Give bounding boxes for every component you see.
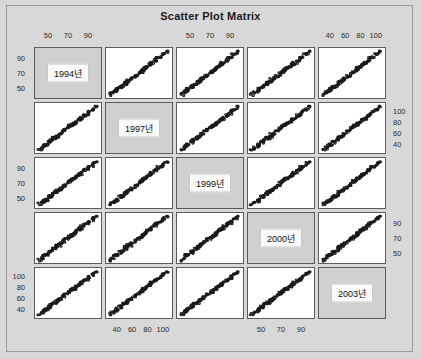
axis-tick-label: 80 (393, 117, 401, 126)
axis-tick-label: 70 (393, 234, 401, 243)
matrix-scatter-cell-r3-c1 (34, 157, 102, 209)
axis-tick-label: 70 (206, 31, 214, 40)
axis-tick-label: 80 (356, 31, 364, 40)
matrix-diagonal-cell-2: 1997년 (105, 102, 173, 154)
matrix-diagonal-cell-4: 2000년 (247, 212, 315, 264)
axis-tick-label: 40 (326, 31, 334, 40)
matrix-scatter-cell-r5-c3 (176, 267, 244, 319)
axis-left-row-5: 100806040 (27, 267, 34, 319)
axis-tick-label: 90 (393, 219, 401, 228)
axis-top-col-2 (105, 40, 173, 47)
axis-tick-label: 90 (17, 164, 25, 173)
matrix-scatter-cell-r5-c4 (247, 267, 315, 319)
matrix-diagonal-cell-5: 2003년 (318, 267, 386, 319)
matrix-scatter-cell-r5-c1 (34, 267, 102, 319)
axis-right-row-5 (386, 267, 393, 319)
matrix-scatter-cell-r1-c2 (105, 47, 173, 99)
axis-tick-label: 50 (44, 31, 52, 40)
axis-top-col-1: 507090 (34, 40, 102, 47)
axis-top-col-4 (247, 40, 315, 47)
matrix-scatter-cell-r2-c1 (34, 102, 102, 154)
axis-bottom-col-3 (176, 319, 244, 326)
axis-right-row-3 (386, 157, 393, 209)
axis-bottom-col-2: 406080100 (105, 319, 173, 326)
axis-tick-label: 40 (113, 325, 121, 334)
matrix-scatter-cell-r2-c5 (318, 102, 386, 154)
matrix-scatter-cell-r4-c5 (318, 212, 386, 264)
axis-tick-label: 100 (12, 271, 25, 280)
matrix-scatter-cell-r4-c3 (176, 212, 244, 264)
axis-right-row-4: 907050 (386, 212, 393, 264)
matrix-scatter-cell-r3-c4 (247, 157, 315, 209)
axis-tick-label: 40 (393, 140, 401, 149)
axis-left-row-2 (27, 102, 34, 154)
axis-tick-label: 50 (186, 31, 194, 40)
matrix-scatter-cell-r1-c3 (176, 47, 244, 99)
matrix-scatter-cell-r4-c1 (34, 212, 102, 264)
axis-tick-label: 60 (128, 325, 136, 334)
axis-bottom-col-4: 507090 (247, 319, 315, 326)
axis-tick-label: 80 (17, 282, 25, 291)
axis-tick-label: 90 (226, 31, 234, 40)
axis-bottom-col-1 (34, 319, 102, 326)
axis-tick-label: 50 (17, 83, 25, 92)
matrix-scatter-cell-r3-c5 (318, 157, 386, 209)
variable-label: 2000년 (260, 229, 302, 248)
axis-tick-label: 70 (277, 325, 285, 334)
axis-left-row-3: 907050 (27, 157, 34, 209)
matrix-scatter-cell-r2-c4 (247, 102, 315, 154)
axis-top-col-5: 406080100 (318, 40, 386, 47)
axis-tick-label: 90 (297, 325, 305, 334)
axis-tick-label: 50 (257, 325, 265, 334)
axis-tick-label: 80 (143, 325, 151, 334)
matrix-scatter-cell-r1-c5 (318, 47, 386, 99)
axis-bottom-col-5 (318, 319, 386, 326)
axis-tick-label: 60 (17, 294, 25, 303)
axis-left-row-4 (27, 212, 34, 264)
axis-tick-label: 100 (393, 106, 406, 115)
axis-tick-label: 70 (17, 179, 25, 188)
scatter-plot-matrix-figure: Scatter Plot Matrix 1994년1997년1999년2000년… (0, 0, 421, 359)
axis-tick-label: 60 (341, 31, 349, 40)
matrix-scatter-cell-r2-c3 (176, 102, 244, 154)
axis-tick-label: 50 (17, 193, 25, 202)
axis-tick-label: 50 (393, 248, 401, 257)
axis-tick-label: 90 (17, 54, 25, 63)
matrix-scatter-cell-r1-c4 (247, 47, 315, 99)
matrix-diagonal-cell-1: 1994년 (34, 47, 102, 99)
matrix-grid: 1994년1997년1999년2000년2003년 (34, 47, 386, 319)
axis-tick-label: 70 (17, 69, 25, 78)
chart-title: Scatter Plot Matrix (0, 10, 421, 22)
axis-right-row-2: 100806040 (386, 102, 393, 154)
variable-label: 1997년 (118, 119, 160, 138)
axis-tick-label: 100 (157, 325, 170, 334)
matrix-diagonal-cell-3: 1999년 (176, 157, 244, 209)
axis-tick-label: 90 (84, 31, 92, 40)
variable-label: 2003년 (331, 284, 373, 303)
axis-tick-label: 70 (64, 31, 72, 40)
matrix-scatter-cell-r3-c2 (105, 157, 173, 209)
axis-tick-label: 40 (17, 305, 25, 314)
matrix-scatter-cell-r5-c2 (105, 267, 173, 319)
axis-tick-label: 100 (370, 31, 383, 40)
variable-label: 1999년 (189, 174, 231, 193)
axis-tick-label: 60 (393, 129, 401, 138)
axis-top-col-3: 507090 (176, 40, 244, 47)
matrix-scatter-cell-r4-c2 (105, 212, 173, 264)
axis-left-row-1: 907050 (27, 47, 34, 99)
variable-label: 1994년 (47, 64, 89, 83)
axis-right-row-1 (386, 47, 393, 99)
